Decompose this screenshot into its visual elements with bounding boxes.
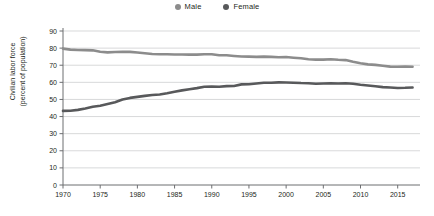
y-tick-label-40: 40 [49,113,57,120]
y-tick-label-80: 80 [49,45,57,52]
y-tick-label-50: 50 [49,96,57,103]
x-tick-label-1980: 1980 [130,191,146,198]
x-axis-ticks: 1970197519801985199019952000200520102015 [55,185,405,198]
x-tick-label-1995: 1995 [241,191,257,198]
y-tick-label-10: 10 [49,164,57,171]
figure: Male Female Civilian labor force (percen… [0,0,434,216]
x-tick-label-2000: 2000 [278,191,294,198]
series-line-female [63,82,413,111]
x-tick-label-2010: 2010 [353,191,369,198]
y-tick-label-90: 90 [49,28,57,35]
y-tick-label-20: 20 [49,147,57,154]
y-tick-label-30: 30 [49,130,57,137]
y-axis-ticks: 0102030405060708090 [49,28,63,189]
series-line-male [63,49,413,67]
y-tick-label-70: 70 [49,62,57,69]
x-tick-label-2015: 2015 [390,191,406,198]
x-tick-label-2005: 2005 [316,191,332,198]
x-tick-label-1975: 1975 [92,191,108,198]
y-tick-label-0: 0 [53,182,57,189]
x-tick-label-1970: 1970 [55,191,71,198]
chart-plot: 0102030405060708090 19701975198019851990… [0,0,434,216]
x-tick-label-1990: 1990 [204,191,220,198]
y-tick-label-60: 60 [49,79,57,86]
x-tick-label-1985: 1985 [167,191,183,198]
